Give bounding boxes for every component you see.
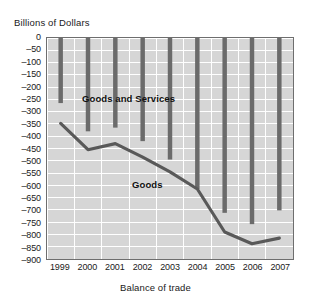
x-axis-tick-label: 2002 (133, 262, 153, 272)
balance-of-trade-chart: Billions of Dollars 0–50–100–150–200–250… (0, 0, 311, 305)
series-label-goods: Goods (132, 179, 163, 190)
y-axis-ticks: 0–50–100–150–200–250–300–350–400–450–500… (0, 37, 44, 260)
chart-title: Billions of Dollars (14, 17, 90, 28)
x-axis-tick-label: 2000 (78, 262, 98, 272)
x-axis-title: Balance of trade (0, 282, 311, 293)
x-axis-tick-label: 1999 (50, 262, 70, 272)
y-axis-tick-label: –50 (26, 44, 41, 54)
y-axis-tick-label: 0 (36, 32, 41, 42)
y-axis-tick-label: –750 (21, 218, 41, 228)
plot-canvas (47, 38, 293, 259)
y-axis-tick-label: –400 (21, 131, 41, 141)
y-axis-tick-label: –700 (21, 205, 41, 215)
x-axis-tick-label: 2001 (105, 262, 125, 272)
goods-and-services-bars (58, 38, 281, 224)
y-axis-tick-label: –250 (21, 94, 41, 104)
y-axis-tick-label: –150 (21, 69, 41, 79)
y-axis-tick-label: –500 (21, 156, 41, 166)
y-axis-tick-label: –350 (21, 119, 41, 129)
y-axis-tick-label: –100 (21, 57, 41, 67)
y-axis-tick-label: –800 (21, 230, 41, 240)
plot-area (46, 37, 294, 260)
y-axis-tick-label: –200 (21, 82, 41, 92)
x-axis-tick-label: 2004 (188, 262, 208, 272)
y-axis-tick-label: –450 (21, 144, 41, 154)
y-axis-tick-label: –650 (21, 193, 41, 203)
x-axis-ticks: 199920002001200220032004200520062007 (46, 262, 294, 278)
x-axis-tick-label: 2003 (160, 262, 180, 272)
y-axis-tick-label: –850 (21, 243, 41, 253)
x-axis-tick-label: 2007 (270, 262, 290, 272)
x-axis-tick-label: 2005 (215, 262, 235, 272)
y-axis-tick-label: –550 (21, 168, 41, 178)
y-axis-tick-label: –900 (21, 255, 41, 265)
y-axis-tick-label: –300 (21, 106, 41, 116)
y-axis-tick-label: –600 (21, 181, 41, 191)
series-label-goods-and-services: Goods and Services (82, 93, 175, 104)
x-axis-tick-label: 2006 (243, 262, 263, 272)
